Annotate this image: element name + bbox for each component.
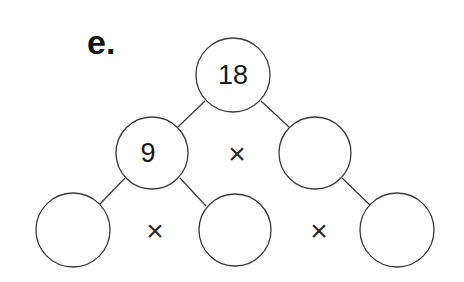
node-mid-right[interactable] — [279, 117, 351, 189]
edge-midleft-bottommiddle — [180, 178, 206, 206]
edge-midleft-bottomleft — [100, 178, 125, 204]
node-root-value: 18 — [218, 60, 248, 90]
node-root[interactable]: 18 — [196, 38, 270, 112]
node-bottom-right[interactable] — [360, 193, 434, 267]
factor-tree: 18 9 × × × — [0, 0, 464, 282]
node-bottom-left[interactable] — [36, 193, 110, 267]
edge-root-midright — [261, 101, 289, 127]
multiply-sign-bottom-right: × — [310, 214, 328, 247]
multiply-sign-middle: × — [228, 137, 246, 170]
node-mid-left-value: 9 — [140, 138, 155, 168]
node-bottom-middle[interactable] — [199, 194, 271, 266]
edge-midright-bottomright — [342, 178, 370, 205]
edge-root-midleft — [178, 101, 205, 127]
node-mid-left[interactable]: 9 — [116, 117, 188, 189]
multiply-sign-bottom-left: × — [146, 214, 164, 247]
